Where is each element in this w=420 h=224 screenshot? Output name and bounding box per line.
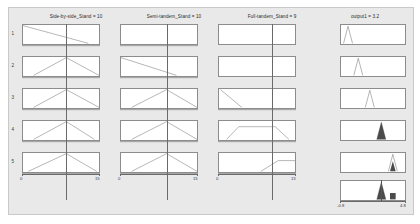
membership-cell-c1-r5[interactable] (22, 152, 100, 173)
rule-index-3: 3 (6, 95, 14, 100)
membership-cell-c3-r1[interactable] (218, 24, 296, 45)
column-header-output1: output1 = 3.2 (320, 14, 410, 19)
axis-label-max-c4: 4.8 (400, 203, 406, 208)
axis-line-c3 (218, 174, 296, 175)
axis-label-max-c2: 15 (193, 176, 198, 181)
rule-index-2: 2 (6, 63, 14, 68)
defuzzified-output-marker[interactable] (381, 180, 382, 201)
membership-cell-c1-r3[interactable] (22, 88, 100, 109)
axis-line-c4 (340, 201, 406, 202)
membership-cell-c1-r1[interactable] (22, 24, 100, 45)
membership-cell-c3-r3[interactable] (218, 88, 296, 109)
axis-label-min-c4: -0.8 (337, 203, 344, 208)
rule-index-1: 1 (6, 31, 14, 36)
output-cell-r1[interactable] (340, 24, 406, 45)
output-cell-r5[interactable] (340, 152, 406, 173)
axis-label-max-c1: 15 (95, 176, 100, 181)
axis-label-min-c2: 0 (118, 176, 120, 181)
axis-label-min-c1: 0 (20, 176, 22, 181)
rule-index-4: 4 (6, 127, 14, 132)
output-cell-r3[interactable] (340, 88, 406, 109)
axis-label-max-c3: 13 (291, 176, 296, 181)
membership-cell-c2-r5[interactable] (120, 152, 198, 173)
axis-label-min-c3: 0 (216, 176, 218, 181)
rule-viewer-root: Side-by-side_Stand = 10 Semi-tandem_Stan… (0, 0, 420, 224)
output-cell-r4[interactable] (340, 120, 406, 141)
membership-cell-c2-r4[interactable] (120, 120, 198, 141)
membership-cell-c3-r2[interactable] (218, 56, 296, 77)
rule-index-5: 5 (6, 159, 14, 164)
membership-cell-c3-r4[interactable] (218, 120, 296, 141)
axis-line-c2 (120, 174, 198, 175)
aggregate-output-cell[interactable] (340, 180, 406, 201)
output-cell-r2[interactable] (340, 56, 406, 77)
membership-cell-c2-r1[interactable] (120, 24, 198, 45)
axis-line-c1 (22, 174, 100, 175)
column-header-full-tandem: Full-tandem_Stand = 9 (212, 14, 332, 19)
membership-cell-c1-r4[interactable] (22, 120, 100, 141)
membership-cell-c3-r5[interactable] (218, 152, 296, 173)
membership-cell-c2-r2[interactable] (120, 56, 198, 77)
membership-cell-c1-r2[interactable] (22, 56, 100, 77)
membership-cell-c2-r3[interactable] (120, 88, 198, 109)
